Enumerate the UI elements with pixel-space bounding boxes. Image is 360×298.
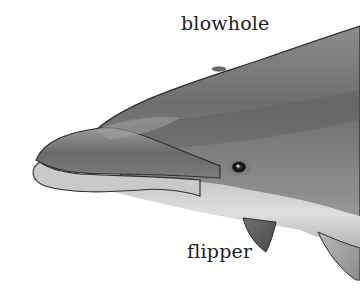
- blowhole-mark: [212, 67, 226, 71]
- dolphin-drawing: [0, 0, 360, 298]
- dolphin-illustration: blowhole flipper: [0, 0, 360, 298]
- blowhole-label: blowhole: [181, 12, 270, 34]
- flipper-label: flipper: [187, 240, 252, 262]
- dolphin-eye: [227, 160, 251, 176]
